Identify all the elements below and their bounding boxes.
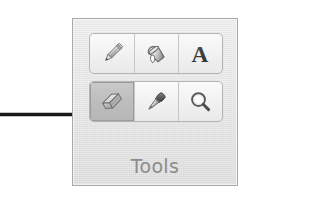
fill-tool-button[interactable] xyxy=(134,34,178,73)
svg-text:A: A xyxy=(192,41,209,67)
magnifier-icon xyxy=(187,89,213,115)
pencil-icon xyxy=(99,41,125,67)
magnifier-tool-button[interactable] xyxy=(178,82,222,121)
eraser-tool-button[interactable] xyxy=(90,82,134,121)
tools-button-area: A xyxy=(73,19,237,147)
tool-row-bottom xyxy=(89,81,223,122)
color-picker-tool-button[interactable] xyxy=(134,82,178,121)
tools-group-label: Tools xyxy=(73,147,237,185)
text-tool-button[interactable]: A xyxy=(178,34,222,73)
tool-row-top: A xyxy=(89,33,223,74)
eraser-icon xyxy=(99,89,125,115)
pencil-tool-button[interactable] xyxy=(90,34,134,73)
text-a-icon: A xyxy=(187,41,213,67)
paint-bucket-icon xyxy=(143,41,169,67)
tools-group-panel: A xyxy=(72,18,238,186)
eyedropper-icon xyxy=(143,89,169,115)
